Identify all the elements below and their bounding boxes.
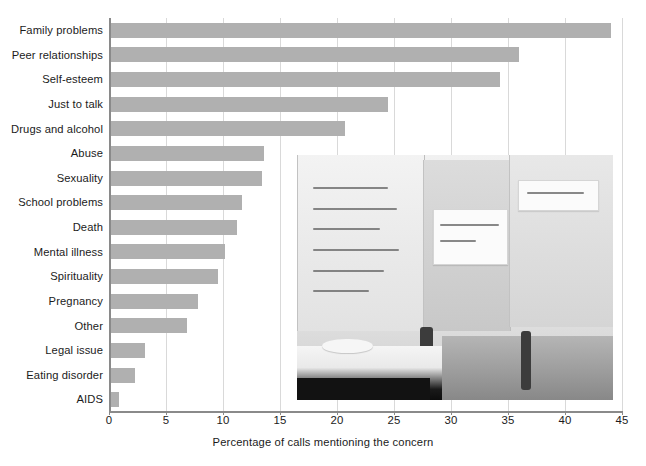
y-axis-label: Just to talk — [48, 92, 103, 117]
bar — [109, 72, 500, 87]
photo-poster-listen — [433, 209, 508, 265]
bar — [109, 171, 262, 186]
y-axis-label: Eating disorder — [26, 363, 103, 388]
bar — [109, 97, 388, 112]
bar-chart-figure: Family problems Peer relationships Self-… — [0, 0, 646, 466]
bar — [109, 368, 135, 383]
x-axis-tick-label: 0 — [106, 414, 113, 426]
x-axis-tick-label: 10 — [216, 414, 229, 426]
bar-row — [109, 117, 622, 142]
y-axis-label: Sexuality — [57, 166, 103, 191]
photo-poster-choose — [518, 180, 599, 211]
bar — [109, 392, 119, 407]
y-axis-label: AIDS — [76, 387, 103, 412]
bar — [109, 220, 237, 235]
bar — [109, 146, 264, 161]
x-axis-tick-mark — [451, 411, 452, 415]
y-axis-line — [109, 18, 111, 412]
y-axis-label: Pregnancy — [49, 289, 103, 314]
x-axis-tick-mark — [166, 411, 167, 415]
bar — [109, 47, 519, 62]
x-axis-tick-labels: 051015202530354045 — [0, 414, 646, 432]
bar — [109, 195, 242, 210]
bar — [109, 244, 225, 259]
x-axis-tick-label: 30 — [444, 414, 457, 426]
x-axis-tick-label: 25 — [387, 414, 400, 426]
y-axis-label: School problems — [18, 190, 103, 215]
y-axis-label: Abuse — [71, 141, 103, 166]
photo-inset — [297, 155, 613, 400]
x-axis-tick-mark — [622, 411, 623, 415]
x-axis-tick-mark — [565, 411, 566, 415]
y-axis-labels: Family problems Peer relationships Self-… — [0, 18, 103, 412]
x-axis-tick-label: 45 — [615, 414, 628, 426]
x-axis-tick-mark — [508, 411, 509, 415]
bar — [109, 343, 145, 358]
x-axis-tick-mark — [337, 411, 338, 415]
bar — [109, 294, 198, 309]
photo-chair-right — [521, 331, 530, 390]
x-axis-tick-label: 20 — [330, 414, 343, 426]
x-axis-tick-label: 35 — [501, 414, 514, 426]
y-axis-label: Mental illness — [34, 240, 103, 265]
y-axis-label: Death — [73, 215, 103, 240]
photo-desk-front — [297, 378, 430, 400]
x-axis-tick-label: 5 — [163, 414, 170, 426]
y-axis-label: Spirituality — [50, 264, 103, 289]
x-axis-tick-label: 40 — [558, 414, 571, 426]
x-axis-tick-mark — [394, 411, 395, 415]
bar — [109, 23, 611, 38]
x-axis-line — [109, 411, 622, 413]
bar-row — [109, 92, 622, 117]
x-axis-tick-mark — [109, 411, 110, 415]
y-axis-label: Peer relationships — [12, 43, 103, 68]
photo-handwritten-note — [306, 170, 413, 317]
bar — [109, 318, 187, 333]
x-axis-title: Percentage of calls mentioning the conce… — [0, 436, 646, 448]
gridline — [622, 18, 623, 412]
y-axis-label: Other — [75, 314, 103, 339]
x-axis-tick-label: 15 — [273, 414, 286, 426]
bar-row — [109, 18, 622, 43]
x-axis-tick-mark — [280, 411, 281, 415]
bar-row — [109, 67, 622, 92]
y-axis-label: Drugs and alcohol — [11, 117, 103, 142]
bar-row — [109, 43, 622, 68]
bar — [109, 121, 345, 136]
y-axis-label: Family problems — [19, 18, 103, 43]
x-axis-tick-mark — [223, 411, 224, 415]
bar — [109, 269, 218, 284]
y-axis-label: Self-esteem — [42, 67, 103, 92]
y-axis-label: Legal issue — [45, 338, 103, 363]
